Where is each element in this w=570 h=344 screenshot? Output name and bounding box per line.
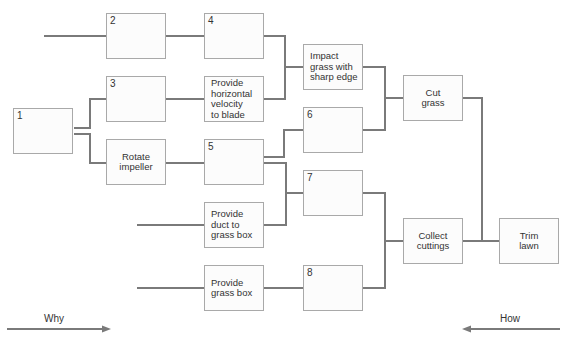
how-arrow [462,326,560,333]
node-number: 8 [307,267,313,278]
node-label: Provide duct to grass box [205,203,263,247]
node-cut-grass: Cut grass [403,75,463,121]
node-impact-grass: Impact grass with sharp edge [303,44,363,90]
node-number: 1 [17,110,23,121]
why-label: Why [44,313,64,324]
node-number: 6 [307,109,313,120]
connector-lines [0,0,570,344]
node-trim-lawn: Trim lawn [499,218,559,264]
node-1: 1 [13,108,73,154]
node-label: Provide horizontal velocity to blade [205,77,263,121]
node-label: Impact grass with sharp edge [304,45,362,89]
node-label: Provide grass box [205,266,263,310]
node-number: 7 [307,172,313,183]
node-provide-duct: Provide duct to grass box [204,202,264,248]
node-2: 2 [106,13,166,59]
node-4: 4 [204,13,264,59]
function-tree-diagram: 1 2 3 Rotate impeller 4 Provide horizont… [0,0,570,344]
node-rotate-impeller: Rotate impeller [106,139,166,185]
node-label: Cut grass [404,76,462,120]
why-arrow [7,326,111,333]
how-label: How [500,313,520,324]
node-7: 7 [303,170,363,216]
node-number: 2 [110,15,116,26]
node-6: 6 [303,107,363,153]
node-label: Trim lawn [500,219,558,263]
node-number: 5 [208,141,214,152]
node-number: 3 [110,78,116,89]
node-provide-grass-box: Provide grass box [204,265,264,311]
node-label: Rotate impeller [107,140,165,184]
node-label: Collect cuttings [404,219,462,263]
node-3: 3 [106,76,166,122]
node-collect-cuttings: Collect cuttings [403,218,463,264]
node-number: 4 [208,15,214,26]
node-8: 8 [303,265,363,311]
node-provide-horizontal-velocity: Provide horizontal velocity to blade [204,76,264,122]
node-5: 5 [204,139,264,185]
